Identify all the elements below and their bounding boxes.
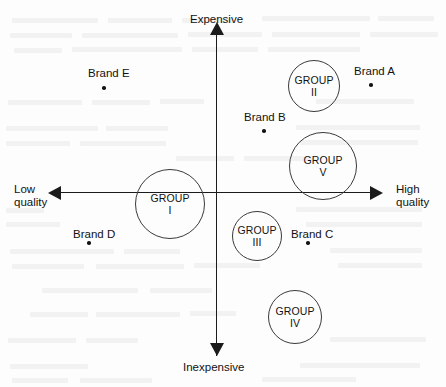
brand-marker-dot xyxy=(306,241,310,245)
brand-marker-dot xyxy=(102,86,106,90)
group-number: IV xyxy=(290,317,300,329)
brand-marker-dot xyxy=(369,83,373,87)
brand-marker-dot xyxy=(87,241,91,245)
group-number: III xyxy=(253,236,262,248)
brand-label: Brand A xyxy=(354,65,395,78)
group-number: II xyxy=(311,86,317,98)
group-bubble-ii[interactable]: GROUPII xyxy=(288,60,340,112)
axis-arrow-left-icon xyxy=(48,186,61,200)
group-bubble-iv[interactable]: GROUPIV xyxy=(268,290,322,344)
group-bubble-i[interactable]: GROUPI xyxy=(135,169,205,239)
brand-label: Brand D xyxy=(73,228,115,241)
axis-label-expensive: Expensive xyxy=(190,13,243,26)
group-number: I xyxy=(169,204,172,216)
group-label: GROUP xyxy=(150,192,189,204)
group-label: GROUP xyxy=(275,305,314,317)
axis-label-high-quality: High quality xyxy=(396,183,429,209)
group-label: GROUP xyxy=(303,154,342,166)
brand-label: Brand C xyxy=(291,228,333,241)
group-number: V xyxy=(319,166,326,178)
axis-label-inexpensive: Inexpensive xyxy=(183,361,244,374)
group-label: GROUP xyxy=(294,74,333,86)
group-bubble-iii[interactable]: GROUPIII xyxy=(232,211,282,261)
brand-label: Brand E xyxy=(88,67,130,80)
brand-label: Brand B xyxy=(244,111,286,124)
axis-arrow-down-icon xyxy=(210,343,224,356)
axis-arrow-right-icon xyxy=(370,186,383,200)
group-label: GROUP xyxy=(237,224,276,236)
brand-marker-dot xyxy=(262,129,266,133)
chart-plane: Expensive Inexpensive Low quality High q… xyxy=(0,0,446,387)
group-bubble-v[interactable]: GROUPV xyxy=(289,132,357,200)
axis-label-low-quality: Low quality xyxy=(14,183,47,209)
positioning-map-figure: Expensive Inexpensive Low quality High q… xyxy=(0,0,446,387)
